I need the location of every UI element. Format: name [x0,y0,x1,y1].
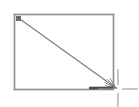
canvas-scene [0,0,139,107]
diagonal-arrow[interactable] [17,17,116,88]
drawing-canvas[interactable] [0,0,139,107]
arrowhead-icon [105,79,116,88]
top-left-corner-handle[interactable] [16,16,21,21]
